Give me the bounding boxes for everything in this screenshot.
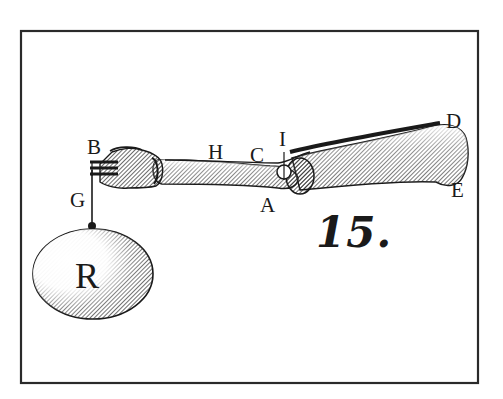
- label-D: D: [446, 111, 461, 132]
- label-E: E: [451, 180, 464, 201]
- figure-number: 15.: [316, 212, 392, 254]
- label-C: C: [250, 145, 264, 166]
- label-H: H: [208, 142, 223, 163]
- label-I: I: [279, 129, 286, 150]
- label-G: G: [70, 190, 85, 211]
- label-B: B: [87, 137, 101, 158]
- plate-frame: [21, 31, 478, 383]
- label-R: R: [75, 258, 99, 294]
- label-A: A: [260, 195, 275, 216]
